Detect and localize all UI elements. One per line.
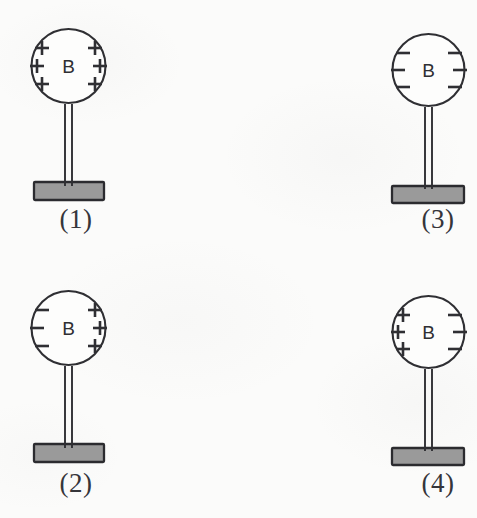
electroscope-drawing-3: B	[362, 8, 477, 208]
electroscope-panel-4: B (4)	[362, 272, 477, 499]
electroscope-caption-1: (1)	[20, 204, 132, 235]
bulb-label-2: B	[62, 318, 75, 339]
electroscope-figure-grid: B (1)	[0, 0, 477, 518]
electroscope-base-2	[34, 444, 104, 462]
electroscope-panel-1: B (1)	[6, 8, 156, 235]
electroscope-drawing-1: B	[6, 8, 156, 208]
electroscope-svg-2: B	[6, 272, 156, 472]
electroscope-drawing-2: B	[6, 272, 156, 472]
electroscope-caption-2: (2)	[20, 468, 132, 499]
electroscope-svg-3: B	[362, 8, 477, 208]
electroscope-caption-3: (3)	[382, 204, 477, 235]
electroscope-drawing-4: B	[362, 272, 477, 472]
bulb-label-4: B	[422, 322, 435, 343]
electroscope-base-4	[392, 448, 464, 465]
electroscope-base-1	[34, 182, 104, 200]
bulb-label-3: B	[422, 60, 435, 81]
electroscope-caption-4: (4)	[382, 468, 477, 499]
electroscope-svg-4: B	[362, 272, 477, 472]
bulb-label-1: B	[62, 56, 75, 77]
electroscope-base-3	[392, 186, 464, 203]
electroscope-panel-3: B (3)	[362, 8, 477, 235]
electroscope-panel-2: B (2)	[6, 272, 156, 499]
electroscope-svg-1: B	[6, 8, 156, 208]
